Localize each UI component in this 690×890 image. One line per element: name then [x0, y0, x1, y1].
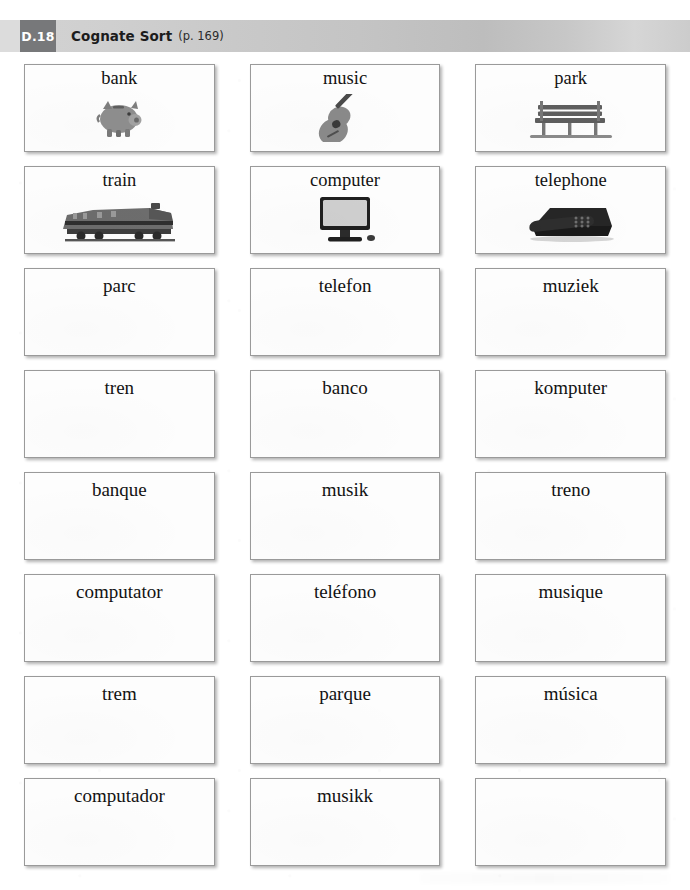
word-card[interactable]: muziek [475, 268, 666, 356]
card-label: tren [105, 378, 135, 397]
word-card[interactable]: trem [24, 676, 215, 764]
monitor-icon [251, 190, 440, 254]
word-card[interactable]: música [475, 676, 666, 764]
blank-card[interactable] [475, 778, 666, 866]
card-label: music [323, 69, 367, 88]
word-card[interactable]: teléfono [250, 574, 441, 662]
page-bleed-artifact [420, 872, 670, 884]
word-card[interactable]: komputer [475, 370, 666, 458]
card-label: bank [101, 69, 137, 88]
activity-number-badge: D.18 [20, 20, 56, 52]
card-label: park [554, 69, 587, 88]
card-row: banquemusiktreno [24, 472, 666, 560]
header-title-group: Cognate Sort (p. 169) [56, 20, 690, 52]
card-row: computatorteléfonomusique [24, 574, 666, 662]
word-card[interactable]: computador [24, 778, 215, 866]
word-card[interactable]: computer [250, 166, 441, 254]
card-label: música [544, 684, 598, 703]
word-card[interactable]: computator [24, 574, 215, 662]
card-label: computator [76, 582, 163, 601]
page-reference: (p. 169) [178, 29, 224, 43]
word-card[interactable]: musik [250, 472, 441, 560]
card-row: trenbancokomputer [24, 370, 666, 458]
word-card[interactable]: musikk [250, 778, 441, 866]
card-label: banque [92, 480, 147, 499]
word-card[interactable]: parc [24, 268, 215, 356]
cognate-card-grid: bank music park [24, 64, 666, 866]
card-label: musikk [317, 786, 373, 805]
word-card[interactable]: tren [24, 370, 215, 458]
card-row: tremparquemúsica [24, 676, 666, 764]
card-label: telephone [535, 171, 607, 190]
card-label: musik [322, 480, 368, 499]
card-label: muziek [543, 276, 599, 295]
locomotive-icon [25, 190, 214, 254]
word-card[interactable]: park [475, 64, 666, 152]
word-card[interactable]: music [250, 64, 441, 152]
card-label: parque [319, 684, 371, 703]
word-card[interactable]: telefon [250, 268, 441, 356]
worksheet-header: D.18 Cognate Sort (p. 169) [0, 20, 690, 52]
card-label: treno [551, 480, 590, 499]
card-row: computadormusikk [24, 778, 666, 866]
card-row: train computer telephone [24, 166, 666, 254]
card-label: komputer [534, 378, 607, 397]
page-title: Cognate Sort [71, 28, 172, 44]
card-label: train [102, 171, 136, 190]
word-card[interactable]: bank [24, 64, 215, 152]
word-card[interactable]: train [24, 166, 215, 254]
card-row: parctelefonmuziek [24, 268, 666, 356]
word-card[interactable]: banco [250, 370, 441, 458]
card-label: trem [102, 684, 137, 703]
card-label: banco [322, 378, 367, 397]
word-card[interactable]: parque [250, 676, 441, 764]
card-row: bank music park [24, 64, 666, 152]
word-card[interactable]: banque [24, 472, 215, 560]
card-label: computador [74, 786, 165, 805]
card-label: parc [103, 276, 136, 295]
piggy-bank-icon [25, 88, 214, 152]
card-label: computer [310, 171, 380, 190]
word-card[interactable]: musique [475, 574, 666, 662]
card-label: teléfono [314, 582, 376, 601]
header-left-stub [0, 20, 20, 52]
park-bench-icon [476, 88, 665, 152]
telephone-icon [476, 190, 665, 254]
word-card[interactable]: telephone [475, 166, 666, 254]
card-label: telefon [319, 276, 372, 295]
card-label: musique [538, 582, 602, 601]
word-card[interactable]: treno [475, 472, 666, 560]
guitar-icon [251, 88, 440, 152]
